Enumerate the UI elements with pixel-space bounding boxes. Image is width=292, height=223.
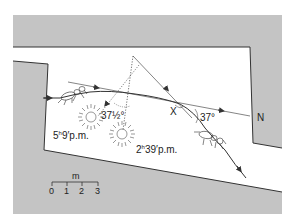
sun-early-time-label: 5h9′p.m.: [53, 130, 89, 141]
ant-navigation-diagram: [0, 0, 292, 223]
angle-label-right: 37°: [200, 113, 215, 123]
scale-tick-1: 1: [64, 187, 69, 196]
north-label: N: [257, 113, 264, 123]
point-x-label: X: [170, 107, 177, 117]
scale-tick-3: 3: [95, 187, 100, 196]
scale-unit-label: m: [72, 172, 80, 181]
scale-tick-2: 2: [79, 187, 84, 196]
angle-label-left: 37½°: [101, 111, 124, 121]
minutes: 9′p.m.: [62, 130, 89, 141]
sun-late-time-label: 2h39′p.m.: [136, 144, 177, 155]
scale-tick-0: 0: [49, 187, 54, 196]
minutes: 39′p.m.: [145, 144, 177, 155]
